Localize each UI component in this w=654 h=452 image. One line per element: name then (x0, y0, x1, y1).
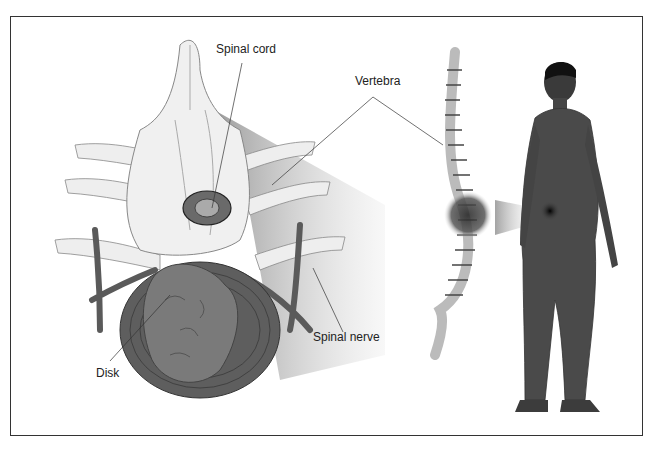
spine-column (435, 52, 492, 355)
pain-spot (540, 201, 560, 221)
label-spinal-cord: Spinal cord (216, 42, 276, 56)
label-vertebra: Vertebra (355, 74, 400, 88)
human-figure (515, 62, 618, 412)
label-disk: Disk (96, 366, 119, 380)
highlighted-lumbar-region (444, 191, 492, 239)
label-spinal-nerve: Spinal nerve (313, 330, 380, 344)
illustration (0, 0, 654, 452)
